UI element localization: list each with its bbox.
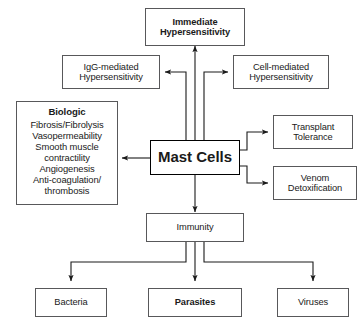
node-line-1: Cell-mediated	[253, 62, 309, 72]
node-item-0: Fibrosis/Fibrolysis	[30, 119, 103, 130]
node-item-6: thrombosis	[45, 185, 90, 196]
edge-immunity-to-viruses	[204, 242, 313, 281]
node-heading: Biologic	[48, 106, 85, 117]
node-line-2: Detoxification	[288, 183, 342, 193]
node-line-2: Hypersensitivity	[79, 72, 143, 82]
node-parasites: Parasites	[148, 288, 242, 317]
node-label: Parasites	[175, 297, 215, 307]
node-item-5: Anti-coagulation/	[33, 174, 101, 185]
node-line-2: Hypersensitivity	[160, 27, 230, 37]
node-item-2: Smooth muscle	[35, 141, 98, 152]
node-item-1: Vasopermeability	[32, 130, 102, 141]
node-line-1: IgG-mediated	[83, 62, 138, 72]
node-line-2: Tolerance	[293, 132, 332, 142]
node-line-1: Immediate	[172, 17, 217, 27]
node-bacteria: Bacteria	[35, 288, 107, 317]
node-item-4: Angiogenesis	[39, 163, 94, 174]
node-biologic: Biologic Fibrosis/Fibrolysis Vasopermeab…	[16, 101, 118, 205]
node-label: Immunity	[177, 222, 214, 232]
node-venom-detoxification: Venom Detoxification	[273, 166, 357, 200]
mast-cells-diagram: Immediate Hypersensitivity IgG-mediated …	[0, 0, 362, 326]
node-item-3: contractility	[44, 152, 90, 163]
node-viruses: Viruses	[277, 288, 349, 317]
node-immunity: Immunity	[146, 213, 244, 242]
node-label: Bacteria	[54, 297, 87, 307]
node-immediate-hypersensitivity: Immediate Hypersensitivity	[145, 8, 245, 46]
node-transplant-tolerance: Transplant Tolerance	[273, 115, 353, 149]
edge-mast-to-cell	[204, 72, 228, 140]
node-line-2: Hypersensitivity	[249, 72, 313, 82]
node-igg-mediated-hypersensitivity: IgG-mediated Hypersensitivity	[62, 55, 160, 89]
node-label: Mast Cells	[158, 149, 232, 166]
node-mast-cells: Mast Cells	[150, 140, 240, 175]
node-line-1: Venom	[301, 173, 329, 183]
edge-mast-to-igg	[165, 72, 186, 140]
edge-mast-to-transplant	[240, 132, 268, 150]
node-line-1: Transplant	[292, 122, 335, 132]
edge-mast-to-venom	[240, 166, 268, 183]
edge-immunity-to-bacteria	[71, 242, 186, 281]
node-cell-mediated-hypersensitivity: Cell-mediated Hypersensitivity	[233, 55, 329, 89]
node-label: Viruses	[298, 297, 328, 307]
